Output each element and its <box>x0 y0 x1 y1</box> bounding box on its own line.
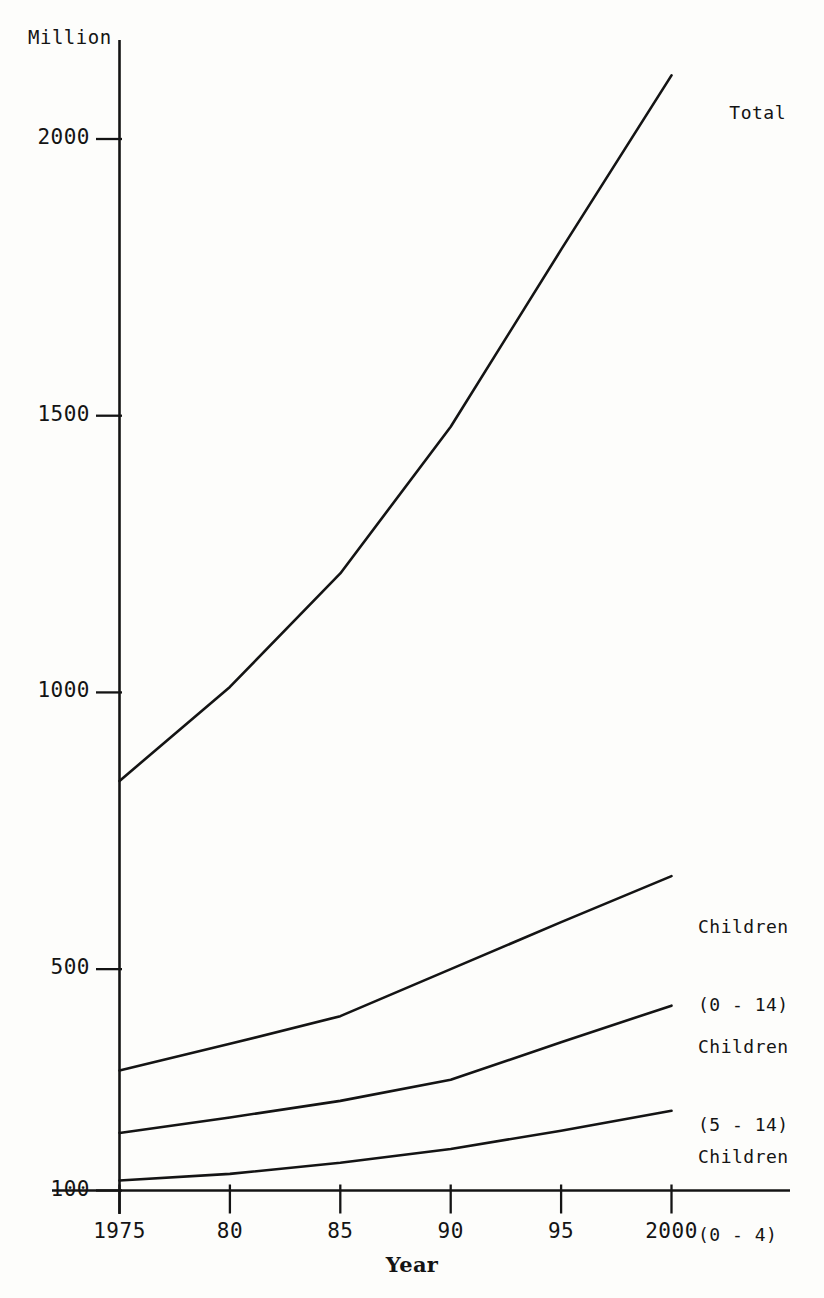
y-tick-label-2000: 2000 <box>6 125 90 149</box>
data-series-group <box>120 75 672 1180</box>
axes-group <box>52 40 790 1214</box>
x-tick-label-85: 85 <box>295 1219 385 1243</box>
series-label-children-0-4-line2: (0 - 4) <box>698 1222 789 1248</box>
y-tick-label-1500: 1500 <box>6 402 90 426</box>
series-label-total-text: Total <box>729 102 786 123</box>
series-label-children-0-14-line1: Children <box>698 914 789 940</box>
y-tick-label-500: 500 <box>6 955 90 979</box>
y-axis-unit-label: Million <box>28 26 112 48</box>
y-tick-label-1000: 1000 <box>6 678 90 702</box>
y-tick-label-100: 100 <box>6 1177 90 1201</box>
x-tick-marks <box>120 1185 672 1214</box>
series-line-2 <box>120 1006 672 1133</box>
page-header-clipped-text <box>0 0 824 2</box>
x-tick-label-80: 80 <box>185 1219 275 1243</box>
x-tick-label-1975: 1975 <box>75 1219 165 1243</box>
chart-page: Million 200015001000500100 1975808590952… <box>0 0 824 1298</box>
series-label-total: Total <box>684 74 786 152</box>
x-tick-label-90: 90 <box>406 1219 496 1243</box>
y-tick-marks <box>96 139 122 1191</box>
series-line-0 <box>120 75 672 781</box>
x-axis-title: Year <box>0 1252 824 1277</box>
x-tick-label-95: 95 <box>516 1219 606 1243</box>
series-label-children-5-14-line1: Children <box>698 1034 789 1060</box>
series-label-children-0-4-line1: Children <box>698 1144 789 1170</box>
series-line-1 <box>120 876 672 1070</box>
